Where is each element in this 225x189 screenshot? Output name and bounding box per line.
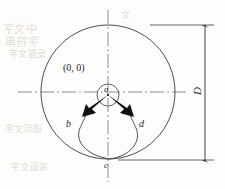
guide-line-to-b [80, 115, 86, 128]
guide-line-to-d [130, 115, 136, 128]
arrow-left [82, 95, 108, 117]
figure-page: 中文字 字符串 反面文字 透印文字 背面文字 文 [0, 0, 225, 189]
technical-diagram [0, 0, 225, 189]
center-point-dot [107, 94, 109, 96]
arrow-right [108, 95, 134, 117]
